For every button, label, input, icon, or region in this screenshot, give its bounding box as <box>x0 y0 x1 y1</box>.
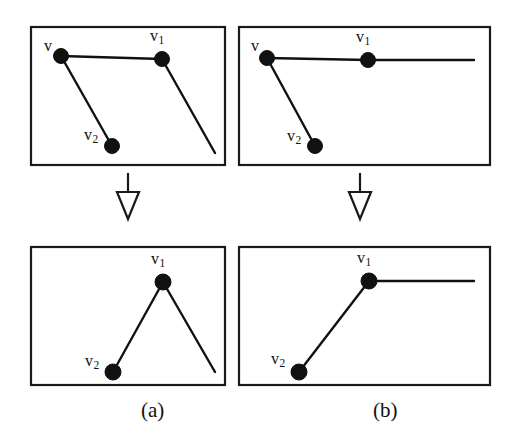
panel-top-right-before-label-v: v <box>251 38 259 54</box>
caption-b: (b) <box>373 400 398 421</box>
transform-arrow-left-head <box>117 192 139 219</box>
figure-canvas <box>0 0 518 443</box>
transform-arrow-left <box>117 173 139 219</box>
panel-bottom-right-after-label-v1: v1 <box>357 250 371 269</box>
label-subscript: 1 <box>158 34 164 46</box>
label-base: v <box>357 249 365 266</box>
label-subscript: 1 <box>365 256 371 268</box>
panel-top-right-before-label-v1: v1 <box>356 29 370 48</box>
panel-bottom-right-after-vertex-v1 <box>361 273 377 289</box>
panel-top-left-before-label-v1: v1 <box>150 28 164 47</box>
label-base: v <box>85 352 93 369</box>
label-base: v <box>84 126 92 143</box>
label-subscript: 1 <box>364 35 370 47</box>
label-base: v <box>356 28 364 45</box>
label-base: v <box>44 37 52 54</box>
panel-bottom-right-after-label-v2: v2 <box>271 351 285 370</box>
label-subscript: 2 <box>279 357 285 369</box>
label-base: v <box>251 37 259 54</box>
panel-bottom-left-after-vertex-v2 <box>105 364 121 380</box>
panel-bottom-right-after-vertex-v2 <box>291 364 307 380</box>
panel-top-right-before-vertex-v1 <box>361 53 376 68</box>
panel-top-left-before-frame <box>31 27 225 165</box>
label-base: v <box>150 27 158 44</box>
panel-top-left-before-vertex-v2 <box>105 139 120 154</box>
panel-top-left-before-label-v: v <box>44 38 52 54</box>
panel-top-left-before-vertex-v1 <box>155 52 170 67</box>
label-subscript: 2 <box>295 134 301 146</box>
arrows-layer <box>117 173 371 219</box>
figure-container: vv1v2vv1v2v1v2v1v2 (a) (b) <box>0 0 518 443</box>
label-subscript: 2 <box>93 359 99 371</box>
panel-bottom-left-after-vertex-v1 <box>155 274 171 290</box>
caption-a: (a) <box>141 400 164 421</box>
transform-arrow-right-head <box>349 192 371 219</box>
panel-bottom-left-after <box>31 247 225 385</box>
panel-bottom-left-after-frame <box>31 247 225 385</box>
label-base: v <box>271 350 279 367</box>
panel-top-right-before-label-v2: v2 <box>287 128 301 147</box>
label-subscript: 1 <box>159 257 165 269</box>
panel-top-left-before-vertex-v <box>54 49 69 64</box>
panel-top-left-before <box>31 27 225 165</box>
label-base: v <box>151 250 159 267</box>
panel-top-right-before-vertex-v2 <box>308 139 323 154</box>
label-subscript: 2 <box>92 133 98 145</box>
panel-bottom-left-after-label-v2: v2 <box>85 353 99 372</box>
transform-arrow-right <box>349 173 371 219</box>
panel-top-left-before-label-v2: v2 <box>84 127 98 146</box>
label-base: v <box>287 127 295 144</box>
panels-layer <box>31 27 490 385</box>
panel-top-right-before-vertex-v <box>260 51 275 66</box>
panel-bottom-left-after-label-v1: v1 <box>151 251 165 270</box>
